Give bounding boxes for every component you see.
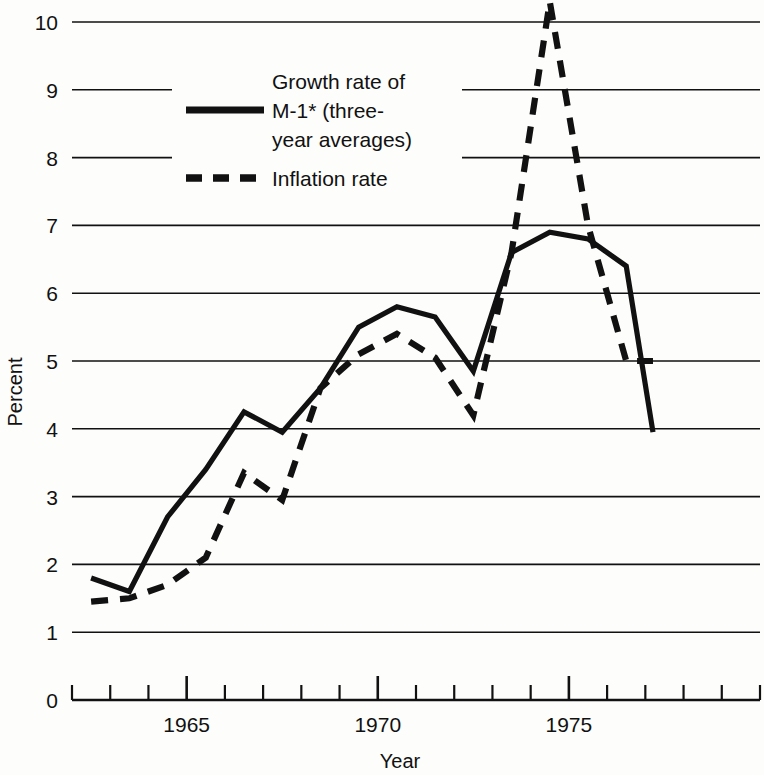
y-tick-label-7: 7 (46, 214, 58, 237)
y-tick-label-9: 9 (46, 79, 58, 102)
y-tick-label-4: 4 (46, 418, 58, 441)
x-axis-title: Year (380, 750, 421, 772)
line-chart: 012345678910 196519701975 Percent Year G… (0, 0, 764, 775)
y-axis-title: Percent (4, 357, 26, 426)
x-axis-tick-labels-group: 196519701975 (163, 713, 592, 736)
y-tick-label-6: 6 (46, 282, 58, 305)
legend-label-inflation: Inflation rate (272, 167, 388, 190)
y-tick-label-10: 10 (35, 11, 58, 34)
x-tick-label-1975: 1975 (546, 713, 593, 736)
y-tick-label-1: 1 (46, 621, 58, 644)
legend-label-m1-line3: year averages) (272, 128, 412, 151)
y-tick-label-5: 5 (46, 350, 58, 373)
y-tick-label-2: 2 (46, 553, 58, 576)
x-axis-ticks-group (72, 676, 760, 700)
x-tick-label-1970: 1970 (354, 713, 401, 736)
x-tick-label-1965: 1965 (163, 713, 210, 736)
chart-legend: Growth rate of M-1* (three- year average… (186, 70, 412, 190)
chart-container: 012345678910 196519701975 Percent Year G… (0, 0, 764, 775)
gridlines-group (72, 22, 760, 632)
y-tick-label-3: 3 (46, 486, 58, 509)
y-axis-tick-labels-group: 012345678910 (35, 11, 59, 712)
y-tick-label-8: 8 (46, 147, 58, 170)
legend-label-m1-line2: M-1* (three- (272, 99, 384, 122)
y-tick-label-0: 0 (46, 689, 58, 712)
series-line-m1-growth-rate (91, 232, 653, 591)
legend-label-m1-line1: Growth rate of (272, 70, 405, 93)
